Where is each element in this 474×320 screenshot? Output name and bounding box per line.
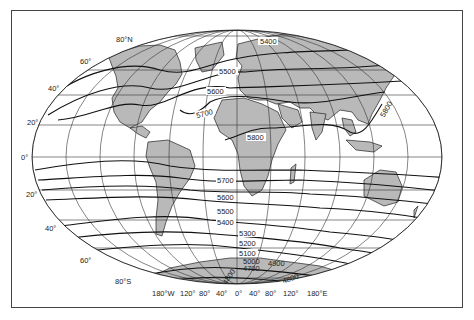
lat-label-80n: 80°N (116, 35, 133, 44)
madagascar (290, 164, 296, 184)
lat-label-60s: 60° (80, 256, 91, 265)
contour-label-5700-n: 5700 (195, 107, 213, 120)
contour-label-5400-n: 5400 (260, 37, 277, 46)
india (310, 112, 326, 140)
contour-label-5500-s: 5500 (217, 207, 234, 216)
contour-label-5700-s: 5700 (217, 176, 234, 185)
lon-label-120w: 120° (180, 289, 196, 298)
contour-label-5800-n1: 5800 (247, 133, 264, 142)
contour-label-4900: 4900 (268, 259, 285, 268)
indonesia (346, 140, 382, 152)
lat-label-20n: 20° (27, 118, 38, 127)
contour-label-5200: 5200 (239, 239, 256, 248)
lon-label-40e: 40° (249, 289, 260, 298)
lon-label-180e: 180°E (307, 289, 328, 298)
lat-label-40s: 40° (45, 224, 56, 233)
lon-label-80e: 80° (265, 289, 276, 298)
lat-label-0: 0° (21, 153, 28, 162)
contour-label-5600-n: 5600 (207, 87, 224, 96)
lat-label-80s: 80°S (115, 277, 131, 286)
contour-label-5400-s: 5400 (217, 218, 234, 227)
contour-label-5300: 5300 (239, 229, 256, 238)
lon-label-180w: 180°W (152, 289, 176, 298)
lon-label-40w: 40° (216, 289, 227, 298)
contour-label-5800-n2: 5800 (378, 100, 394, 119)
contour-label-5600-s: 5600 (217, 193, 234, 202)
lon-label-120e: 120° (283, 289, 299, 298)
central-america (130, 126, 150, 138)
contour-label-5500-n: 5500 (219, 67, 236, 76)
lat-label-60n: 60° (80, 57, 91, 66)
lat-label-40n: 40° (48, 84, 59, 93)
new-zealand (414, 206, 418, 218)
world-map: 80°N 60° 40° 20° 0° 20° 40° 60° 80°S 180… (0, 0, 474, 320)
lon-label-0: 0° (235, 289, 242, 298)
contour-label-4700: 4700 (243, 264, 260, 273)
lat-label-20s: 20° (26, 190, 37, 199)
longitude-labels: 180°W 120° 80° 40° 0° 40° 80° 120° 180°E (152, 289, 328, 298)
lon-label-80w: 80° (199, 289, 210, 298)
